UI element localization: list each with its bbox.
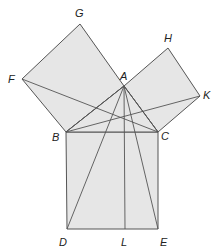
square-bcde <box>66 132 158 229</box>
point-label-k: K <box>203 89 211 101</box>
pythagorean-diagram: ABCDELFGHK <box>0 0 217 250</box>
point-label-l: L <box>121 236 127 248</box>
point-label-f: F <box>8 73 16 85</box>
point-label-h: H <box>164 32 172 44</box>
point-label-g: G <box>75 7 84 19</box>
point-label-c: C <box>161 130 169 142</box>
point-label-e: E <box>160 236 168 248</box>
point-label-d: D <box>59 236 67 248</box>
point-label-a: A <box>119 70 127 82</box>
point-label-b: B <box>52 131 59 143</box>
